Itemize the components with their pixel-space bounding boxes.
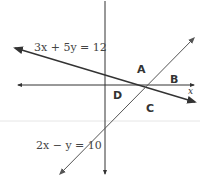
diagram-canvas: 3x + 5y = 12 2x − y = 10 A B C D x xyxy=(0,0,200,193)
coordinate-plane: 3x + 5y = 12 2x − y = 10 A B C D x xyxy=(0,0,200,193)
line-2x-minus-y-eq-10 xyxy=(60,38,194,174)
region-label-b: B xyxy=(170,73,178,86)
region-label-a: A xyxy=(137,63,146,76)
equation-label-2: 2x − y = 10 xyxy=(36,139,102,152)
x-axis-label: x xyxy=(188,86,193,96)
region-label-d: D xyxy=(113,89,122,102)
equation-label-1: 3x + 5y = 12 xyxy=(34,41,107,54)
region-label-c: C xyxy=(146,102,154,115)
